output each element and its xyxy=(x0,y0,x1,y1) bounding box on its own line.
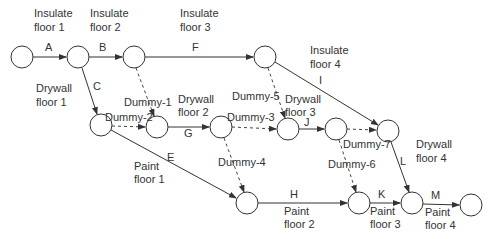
node-9 xyxy=(325,118,347,140)
network-diagram: A B C F I G J L E H K M Insulate floor 1… xyxy=(0,0,497,239)
node-8 xyxy=(277,118,299,140)
node-13 xyxy=(401,192,423,214)
arrow-m xyxy=(423,204,459,205)
activity-letter-k: K xyxy=(378,188,386,200)
activity-letter-i: I xyxy=(319,74,322,86)
desc-g-line1: Drywall xyxy=(178,93,214,105)
desc-j-line2: floor 3 xyxy=(285,106,316,118)
desc-m-line1: Paint xyxy=(425,206,450,218)
activity-letter-b: B xyxy=(99,41,106,53)
dummy-label-6: Dummy-6 xyxy=(328,158,376,170)
dummy-arrow-3 xyxy=(232,127,276,129)
desc-b-line2: floor 2 xyxy=(90,21,121,33)
desc-j-line1: Drywall xyxy=(285,93,321,105)
desc-k-line2: floor 3 xyxy=(370,218,401,230)
node-2 xyxy=(67,46,89,68)
node-3 xyxy=(123,46,145,68)
dummy-label-7: Dummy-7 xyxy=(343,138,391,150)
node-12 xyxy=(348,192,370,214)
desc-a-line2: floor 1 xyxy=(34,21,65,33)
node-11 xyxy=(236,192,258,214)
dummy-label-2: Dummy-2 xyxy=(105,111,153,123)
dummy-arrow-7 xyxy=(347,129,376,130)
desc-l-line1: Drywall xyxy=(416,138,452,150)
desc-i-line2: floor 4 xyxy=(310,58,341,70)
desc-g-line2: floor 2 xyxy=(178,106,209,118)
arrow-l xyxy=(391,142,409,192)
activity-letter-c: C xyxy=(93,80,101,92)
dummy-label-1: Dummy-1 xyxy=(124,96,172,108)
activity-letter-g: G xyxy=(184,127,193,139)
dummy-arrow-2 xyxy=(112,126,145,127)
activity-letter-m: M xyxy=(431,189,440,201)
desc-c-line1: Drywall xyxy=(36,82,72,94)
desc-a-line1: Insulate xyxy=(34,7,73,19)
desc-h-line2: floor 2 xyxy=(284,218,315,230)
desc-f-line1: Insulate xyxy=(180,7,219,19)
node-1 xyxy=(11,46,33,68)
desc-e-line2: floor 1 xyxy=(134,173,165,185)
desc-m-line2: floor 4 xyxy=(425,219,456,231)
node-14 xyxy=(460,194,482,216)
activity-letter-e: E xyxy=(167,151,174,163)
desc-c-line2: floor 1 xyxy=(36,96,67,108)
desc-i-line1: Insulate xyxy=(310,44,349,56)
desc-l-line2: floor 4 xyxy=(416,152,447,164)
dummy-label-4: Dummy-4 xyxy=(218,156,266,168)
activity-letter-a: A xyxy=(45,41,53,53)
desc-k-line1: Paint xyxy=(370,205,395,217)
dummy-arrow-1 xyxy=(136,68,154,116)
dummy-label-5: Dummy-5 xyxy=(232,90,280,102)
desc-e-line1: Paint xyxy=(134,160,159,172)
activity-letter-f: F xyxy=(192,41,199,53)
node-4 xyxy=(254,46,276,68)
activity-letter-h: H xyxy=(290,188,298,200)
desc-f-line2: floor 3 xyxy=(180,21,211,33)
dummy-label-3: Dummy-3 xyxy=(227,111,275,123)
activity-letter-l: L xyxy=(400,155,406,167)
desc-h-line1: Paint xyxy=(284,205,309,217)
desc-b-line1: Insulate xyxy=(90,7,129,19)
